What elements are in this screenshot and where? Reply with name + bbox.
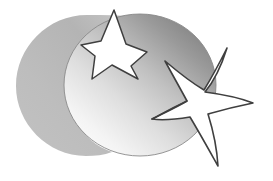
- moon-and-stars-illustration: [0, 0, 273, 181]
- artwork-canvas: Crescent Moon and Two Stars Clipart Cres…: [0, 0, 273, 181]
